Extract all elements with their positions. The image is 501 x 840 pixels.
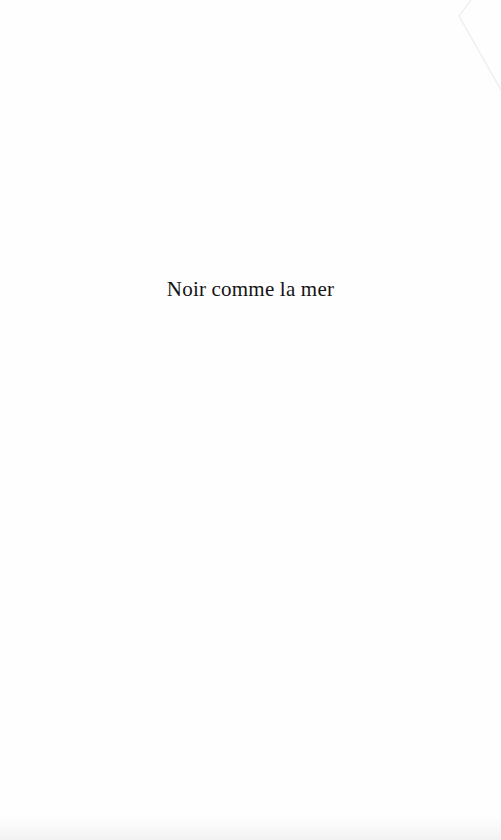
book-half-title: Noir comme la mer [0,277,501,302]
page-corner-fold-mark [431,0,501,110]
book-page: Noir comme la mer [0,0,501,840]
page-bottom-edge-shadow [0,818,501,840]
